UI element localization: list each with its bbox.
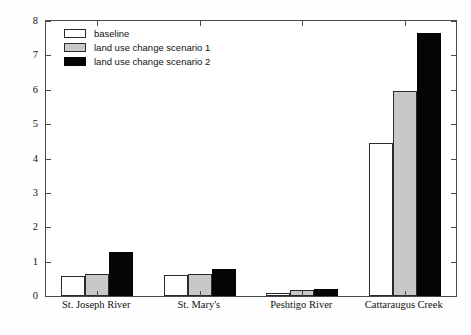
legend-label-baseline: baseline xyxy=(94,29,129,39)
x-axis-tick-top xyxy=(97,21,98,26)
y-axis-tick-label: 8 xyxy=(33,16,38,27)
y-axis-tick-label: 5 xyxy=(33,119,38,130)
legend-swatch-scenario-1 xyxy=(64,43,86,52)
bar-scenario2 xyxy=(417,33,441,296)
legend-item-scenario-2: land use change scenario 2 xyxy=(64,55,274,68)
y-axis-tick xyxy=(46,296,51,297)
y-axis-tick-label: 6 xyxy=(33,85,38,96)
y-axis-tick xyxy=(46,55,51,56)
x-axis-tick-top xyxy=(302,21,303,26)
y-axis-tick-right xyxy=(451,55,456,56)
x-axis-tick-label: St. Joseph River xyxy=(62,300,131,311)
y-axis-tick-right xyxy=(451,296,456,297)
y-axis-tick xyxy=(46,159,51,160)
x-axis-tick-label: Peshtigo River xyxy=(270,300,332,311)
y-axis-tick xyxy=(46,193,51,194)
bar-baseline xyxy=(61,276,85,296)
x-axis-tick xyxy=(200,291,201,296)
y-axis-tick-right xyxy=(451,124,456,125)
y-axis-tick-right xyxy=(451,21,456,22)
y-axis-tick-right xyxy=(451,193,456,194)
bar-scenario2 xyxy=(109,252,133,296)
bar-scenario1 xyxy=(393,91,417,296)
legend-swatch-scenario-2 xyxy=(64,57,86,66)
x-axis-tick xyxy=(97,291,98,296)
bar-scenario2 xyxy=(314,289,338,296)
y-axis-tick xyxy=(46,90,51,91)
y-axis-tick-right xyxy=(451,262,456,263)
plot-frame: 012345678 baseline land use change scena… xyxy=(45,20,457,297)
bar-scenario2 xyxy=(212,269,236,296)
x-axis-tick-top xyxy=(200,21,201,26)
bar-baseline xyxy=(266,293,290,296)
x-axis-tick-top xyxy=(405,21,406,26)
y-axis-tick-label: 3 xyxy=(33,188,38,199)
figure-canvas: Sediment yield (tons/ha/year) 012345678 … xyxy=(0,0,471,335)
y-axis-tick xyxy=(46,227,51,228)
y-axis-tick-right xyxy=(451,90,456,91)
y-axis-tick xyxy=(46,124,51,125)
y-axis-tick-label: 1 xyxy=(33,256,38,267)
legend-label-scenario-2: land use change scenario 2 xyxy=(94,57,210,67)
legend-label-scenario-1: land use change scenario 1 xyxy=(94,43,210,53)
x-axis-tick-label: St. Mary's xyxy=(177,300,220,311)
bar-baseline xyxy=(164,275,188,296)
x-axis-tick xyxy=(405,291,406,296)
bar-baseline xyxy=(369,143,393,296)
y-axis-tick-right xyxy=(451,227,456,228)
y-axis-tick-right xyxy=(451,159,456,160)
legend-swatch-baseline xyxy=(64,29,86,38)
x-axis-tick-label: Cattaraugus Creek xyxy=(365,300,443,311)
y-axis-tick-label: 7 xyxy=(33,50,38,61)
y-axis-tick-label: 2 xyxy=(33,222,38,233)
chart-legend: baseline land use change scenario 1 land… xyxy=(64,27,274,69)
y-axis-tick xyxy=(46,262,51,263)
y-axis-tick-label: 0 xyxy=(33,291,38,302)
legend-item-baseline: baseline xyxy=(64,27,274,40)
x-axis-tick xyxy=(302,291,303,296)
y-axis-tick-label: 4 xyxy=(33,153,38,164)
y-axis-tick xyxy=(46,21,51,22)
legend-item-scenario-1: land use change scenario 1 xyxy=(64,41,274,54)
